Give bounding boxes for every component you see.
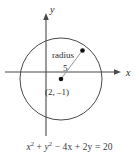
circle-equation: x2 + y2 − 4x + 2y = 20: [0, 140, 139, 152]
x-axis-arrowhead: [114, 69, 121, 75]
equation-equals: =: [95, 142, 100, 152]
circle-graph-figure: y x radius 5 (2, –1) x2 + y2 − 4x + 2y =…: [0, 0, 139, 163]
equation-plus-term: + 2y: [75, 142, 93, 152]
radius-label: radius: [52, 50, 74, 60]
radius-endpoint-dot: [80, 48, 85, 53]
equation-plus-1: +: [37, 142, 42, 152]
y-axis-label: y: [49, 4, 55, 15]
equation-x-exponent: 2: [31, 140, 34, 147]
equation-rhs: 20: [103, 142, 113, 152]
equation-y-exponent: 2: [49, 140, 52, 147]
center-coordinate-label: (2, –1): [45, 87, 69, 97]
y-axis-arrowhead: [43, 13, 49, 20]
equation-minus-term: − 4x: [55, 142, 73, 152]
x-axis-label: x: [125, 67, 131, 78]
center-point-dot: [59, 77, 64, 82]
radius-value-label: 5: [63, 63, 68, 73]
graph-canvas: y x radius 5 (2, –1): [0, 0, 139, 163]
